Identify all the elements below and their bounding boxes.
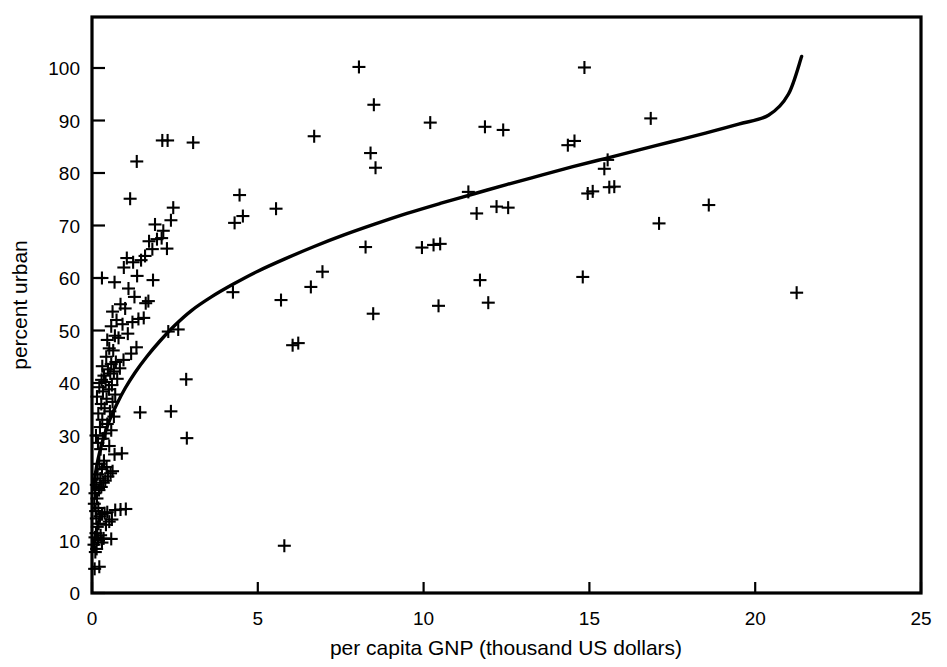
scatter-marker: [164, 405, 177, 418]
x-tick-label: 15: [579, 608, 600, 629]
scatter-marker: [122, 282, 135, 295]
scatter-marker: [143, 235, 156, 248]
scatter-marker: [128, 290, 141, 303]
scatter-marker: [644, 112, 657, 125]
scatter-marker: [653, 217, 666, 230]
x-tick-label: 0: [87, 608, 98, 629]
scatter-marker: [130, 155, 143, 168]
scatter-marker: [142, 295, 155, 308]
scatter-marker: [275, 294, 288, 307]
scatter-marker: [359, 241, 372, 254]
scatter-marker: [352, 60, 365, 73]
y-axis-title: percent urban: [8, 240, 31, 370]
scatter-marker: [124, 192, 137, 205]
chart-canvas: 0102030405060708090100 0510152025 per ca…: [0, 0, 947, 667]
scatter-marker: [578, 61, 591, 74]
y-tick-label: 20: [59, 478, 80, 499]
x-tick-label: 10: [413, 608, 434, 629]
scatter-marker: [180, 432, 193, 445]
scatter-marker: [482, 296, 495, 309]
scatter-marker: [432, 299, 445, 312]
scatter-marker: [470, 207, 483, 220]
scatter-marker: [233, 189, 246, 202]
scatter-marker: [415, 241, 428, 254]
y-tick-label: 50: [59, 321, 80, 342]
y-tick-label: 90: [59, 111, 80, 132]
scatter-marker: [434, 237, 447, 250]
scatter-marker: [576, 270, 589, 283]
scatter-marker: [364, 147, 377, 160]
scatter-marker: [278, 539, 291, 552]
y-tick-label: 10: [59, 531, 80, 552]
x-axis: 0510152025: [87, 582, 932, 629]
scatter-marker: [502, 201, 515, 214]
scatter-marker: [308, 130, 321, 143]
scatter-marker: [149, 218, 162, 231]
scatter-marker: [478, 120, 491, 133]
scatter-marker: [157, 224, 170, 237]
y-tick-label: 0: [69, 583, 80, 604]
scatter-marker: [316, 265, 329, 278]
scatter-marker: [270, 202, 283, 215]
scatter-marker: [598, 162, 611, 175]
scatter-marker: [236, 210, 249, 223]
scatter-marker: [702, 199, 715, 212]
scatter-marker: [367, 98, 380, 111]
y-tick-label: 80: [59, 163, 80, 184]
scatter-marker: [139, 297, 152, 310]
y-tick-label: 40: [59, 373, 80, 394]
scatter-marker: [790, 286, 803, 299]
y-tick-label: 70: [59, 216, 80, 237]
plot-frame: [92, 17, 921, 593]
scatter-marker: [473, 274, 486, 287]
scatter-marker: [497, 123, 510, 136]
scatter-marker: [228, 216, 241, 229]
scatter-marker: [147, 274, 160, 287]
scatter-marker: [424, 116, 437, 129]
scatter-marker: [167, 201, 180, 214]
scatter-marker: [286, 339, 299, 352]
scatter-marker: [115, 447, 128, 460]
scatter-marker: [187, 136, 200, 149]
scatter-marker: [490, 200, 503, 213]
scatter-marker: [164, 214, 177, 227]
x-tick-label: 5: [253, 608, 264, 629]
y-tick-label: 100: [48, 58, 80, 79]
fit-curve-line: [94, 56, 802, 488]
scatter-marker: [108, 276, 121, 289]
scatter-marker: [292, 337, 305, 350]
scatter-marker: [95, 272, 108, 285]
scatter-marker: [369, 161, 382, 174]
scatter-marker: [367, 307, 380, 320]
scatter-marker: [180, 373, 193, 386]
scatter-plot-figure: 0102030405060708090100 0510152025 per ca…: [0, 0, 947, 667]
y-tick-label: 60: [59, 268, 80, 289]
scatter-marker: [304, 280, 317, 293]
y-tick-label: 30: [59, 426, 80, 447]
scatter-marker: [134, 406, 147, 419]
x-axis-title: per capita GNP (thousand US dollars): [330, 636, 682, 659]
scatter-marker: [126, 316, 139, 329]
x-tick-label: 20: [745, 608, 766, 629]
x-tick-label: 25: [910, 608, 931, 629]
scatter-marker: [131, 269, 144, 282]
scatter-points: [87, 60, 803, 575]
